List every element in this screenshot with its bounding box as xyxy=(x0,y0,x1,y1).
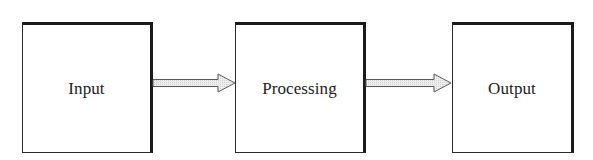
output-label: Output xyxy=(488,79,536,99)
processing-label: Processing xyxy=(262,79,337,99)
input-box: Input xyxy=(22,22,153,153)
processing-box: Processing xyxy=(235,22,366,153)
arrow-input-to-processing-icon xyxy=(153,74,235,92)
input-label: Input xyxy=(68,79,104,99)
output-box: Output xyxy=(452,22,574,153)
arrow-processing-to-output-icon xyxy=(366,74,451,92)
